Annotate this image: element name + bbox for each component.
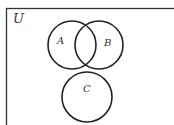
set-a-label: A bbox=[56, 35, 64, 46]
venn-diagram: U A B C bbox=[0, 0, 174, 125]
universe-label: U bbox=[13, 11, 25, 26]
set-c-label: C bbox=[83, 83, 91, 94]
set-b-label: B bbox=[103, 37, 111, 48]
